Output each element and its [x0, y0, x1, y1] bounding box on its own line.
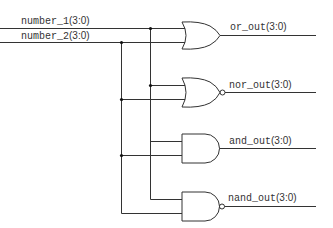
junction-dot — [120, 41, 123, 44]
output-name: nand_out — [228, 193, 276, 204]
output-width: (3:0) — [266, 21, 287, 32]
and-gate — [182, 134, 220, 163]
junction-dot — [120, 154, 123, 157]
input-width: (3:0) — [69, 30, 90, 41]
nor-bubble — [220, 90, 225, 95]
output-width: (3:0) — [276, 192, 297, 203]
output-name: or_out — [230, 22, 266, 33]
junction-dot — [149, 84, 152, 87]
output-name: nor_out — [229, 80, 271, 91]
input-name: number_2 — [21, 31, 69, 42]
nand-bubble — [220, 204, 225, 209]
nand-gate — [182, 192, 220, 221]
input-width: (3:0) — [69, 15, 90, 26]
label-number-1: number_1(3:0) — [21, 15, 90, 27]
junction-dot — [149, 27, 152, 30]
output-name: and_out — [229, 136, 271, 147]
input-name: number_1 — [21, 16, 69, 27]
label-number-2: number_2(3:0) — [21, 30, 90, 42]
label-and-out: and_out(3:0) — [229, 135, 292, 147]
label-or-out: or_out(3:0) — [230, 21, 287, 33]
output-width: (3:0) — [271, 135, 292, 146]
nor-gate — [182, 78, 220, 107]
junction-dot — [120, 98, 123, 101]
label-nand-out: nand_out(3:0) — [228, 192, 297, 204]
label-nor-out: nor_out(3:0) — [229, 79, 292, 91]
or-gate — [182, 22, 220, 49]
output-width: (3:0) — [271, 79, 292, 90]
